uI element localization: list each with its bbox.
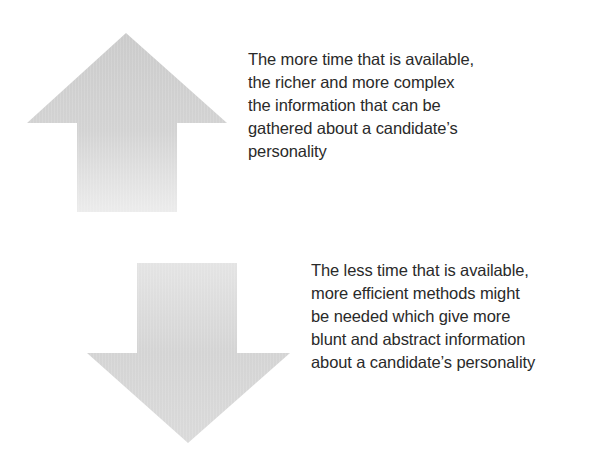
caption-line: gathered about a candidate’s bbox=[248, 117, 474, 140]
caption-line: the richer and more complex bbox=[248, 71, 474, 94]
down-arrow-caption: The less time that is available, more ef… bbox=[311, 259, 535, 374]
caption-line: be needed which give more bbox=[311, 305, 535, 328]
caption-line: blunt and abstract information bbox=[311, 328, 535, 351]
caption-line: about a candidate’s personality bbox=[311, 351, 535, 374]
caption-line: more efficient methods might bbox=[311, 282, 535, 305]
caption-line: the information that can be bbox=[248, 94, 474, 117]
up-arrow-caption: The more time that is available, the ric… bbox=[248, 48, 474, 163]
caption-line: personality bbox=[248, 140, 474, 163]
caption-line: The more time that is available, bbox=[248, 48, 474, 71]
down-arrow-icon bbox=[87, 263, 290, 443]
caption-line: The less time that is available, bbox=[311, 259, 535, 282]
up-arrow-icon bbox=[27, 33, 227, 212]
